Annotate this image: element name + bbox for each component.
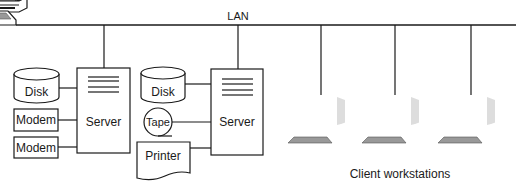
workstation-2 <box>357 95 422 149</box>
network-diagram: LAN Disk Modem Modem Server Disk Tape Pr… <box>0 0 526 193</box>
modem-2-label: Modem <box>16 141 56 155</box>
server-2-label: Server <box>219 115 254 129</box>
server-1 <box>77 68 130 153</box>
printer-label: Printer <box>145 149 180 163</box>
workstation-1 <box>283 95 348 149</box>
disk-1-label: Disk <box>25 85 49 99</box>
workstation-3 <box>433 95 498 149</box>
server-1-label: Server <box>86 115 121 129</box>
workstation-icon <box>0 0 27 25</box>
server-2 <box>211 69 263 155</box>
tape-label: Tape <box>146 116 170 128</box>
client-workstations-label: Client workstations <box>350 167 451 181</box>
lan-label: LAN <box>227 10 248 22</box>
disk-2-label: Disk <box>151 85 175 99</box>
modem-1-label: Modem <box>16 113 56 127</box>
